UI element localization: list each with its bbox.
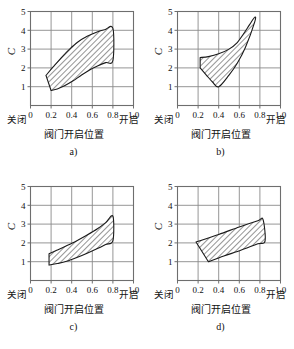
x-axis-left-end-label-b: 关闭 [154, 112, 174, 126]
x-axis-right-end-label-a: 开启 [119, 112, 139, 126]
x-axis-left-end-label-a: 关闭 [7, 112, 27, 126]
y-axis-title-c: C [6, 220, 17, 234]
x-axis-right-end-label-b: 开启 [266, 112, 286, 126]
svg-text:5: 5 [168, 7, 173, 17]
svg-text:3: 3 [21, 44, 26, 54]
x-axis-title-d: 阀门开启位置 [147, 301, 294, 316]
svg-text:1: 1 [21, 82, 26, 92]
panel-caption-c: c) [0, 321, 147, 332]
x-axis-title-b: 阀门开启位置 [147, 126, 294, 141]
svg-text:2: 2 [21, 238, 26, 248]
svg-text:1: 1 [168, 82, 173, 92]
plot-svg-a: 1234500.20.40.60.81.0 [0, 0, 147, 120]
x-axis-title-c: 阀门开启位置 [0, 301, 147, 316]
svg-text:4: 4 [21, 201, 26, 211]
x-axis-end-labels-d: 关闭 开启 [147, 287, 294, 301]
plot-area-c: 1234500.20.40.60.81.0 [0, 175, 147, 295]
svg-text:3: 3 [168, 44, 173, 54]
chart-panel-a: 1234500.20.40.60.81.0 C 关闭 开启 阀门开启位置 a) [0, 0, 147, 174]
panel-caption-a: a) [0, 146, 147, 157]
panel-caption-d: d) [147, 321, 294, 332]
svg-text:2: 2 [168, 238, 173, 248]
svg-text:4: 4 [21, 26, 26, 36]
svg-text:5: 5 [21, 182, 26, 192]
svg-text:5: 5 [168, 182, 173, 192]
plot-svg-c: 1234500.20.40.60.81.0 [0, 175, 147, 295]
svg-text:1: 1 [168, 257, 173, 267]
y-axis-title-d: C [153, 220, 164, 234]
chart-panel-d: 1234500.20.40.60.81.0 C 关闭 开启 阀门开启位置 d) [147, 175, 294, 349]
y-axis-title-a: C [6, 45, 17, 59]
x-axis-right-end-label-c: 开启 [119, 287, 139, 301]
x-axis-title-a: 阀门开启位置 [0, 126, 147, 141]
plot-area-b: 1234500.20.40.60.81.0 [147, 0, 294, 120]
y-axis-title-b: C [153, 45, 164, 59]
svg-text:4: 4 [168, 201, 173, 211]
svg-text:5: 5 [21, 7, 26, 17]
x-axis-right-end-label-d: 开启 [266, 287, 286, 301]
svg-text:2: 2 [168, 63, 173, 73]
plot-area-a: 1234500.20.40.60.81.0 [0, 0, 147, 120]
plot-svg-d: 1234500.20.40.60.81.0 [147, 175, 294, 295]
svg-text:1: 1 [21, 257, 26, 267]
svg-text:3: 3 [21, 219, 26, 229]
svg-text:3: 3 [168, 219, 173, 229]
chart-panel-b: 1234500.20.40.60.81.0 C 关闭 开启 阀门开启位置 b) [147, 0, 294, 174]
x-axis-end-labels-a: 关闭 开启 [0, 112, 147, 126]
x-axis-end-labels-b: 关闭 开启 [147, 112, 294, 126]
panel-caption-b: b) [147, 146, 294, 157]
svg-text:2: 2 [21, 63, 26, 73]
figure-root: 1234500.20.40.60.81.0 C 关闭 开启 阀门开启位置 a) … [0, 0, 294, 349]
x-axis-left-end-label-c: 关闭 [7, 287, 27, 301]
plot-area-d: 1234500.20.40.60.81.0 [147, 175, 294, 295]
x-axis-end-labels-c: 关闭 开启 [0, 287, 147, 301]
plot-svg-b: 1234500.20.40.60.81.0 [147, 0, 294, 120]
x-axis-left-end-label-d: 关闭 [154, 287, 174, 301]
svg-text:4: 4 [168, 26, 173, 36]
chart-panel-c: 1234500.20.40.60.81.0 C 关闭 开启 阀门开启位置 c) [0, 175, 147, 349]
